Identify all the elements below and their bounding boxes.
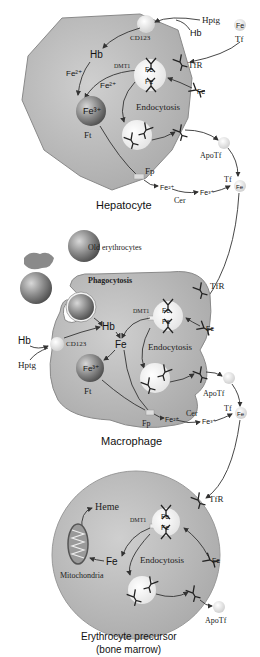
cd163-label: CD123 bbox=[130, 34, 151, 42]
endocytosis-label: Endocytosis bbox=[136, 102, 180, 112]
mac-ft-label: Ft bbox=[84, 386, 92, 396]
apotf-label: ApoTf bbox=[200, 151, 222, 160]
ery-fe-label: Fe bbox=[106, 556, 118, 567]
mac-fp-label: Fp bbox=[142, 419, 150, 428]
mac-hptg-label: Hptg bbox=[18, 360, 37, 370]
mac-tfr-fe-label: Fe bbox=[206, 325, 214, 332]
mac-apotf-label: ApoTf bbox=[203, 389, 225, 398]
ery-endocytosis-label: Endocytosis bbox=[140, 555, 184, 565]
fe2-out-label: Fe²⁺ bbox=[160, 184, 175, 191]
ery-endosome-bottom bbox=[128, 576, 156, 604]
mac-tfr-label: TfR bbox=[210, 281, 225, 291]
fp-label: Fp bbox=[145, 166, 155, 176]
fe2-label-a: Fe²⁺ bbox=[66, 69, 82, 78]
dmt1-label: DMT1 bbox=[114, 63, 130, 69]
ery-tfr-fe-label: Fe bbox=[212, 557, 220, 564]
mac-fp-transporter bbox=[146, 410, 154, 415]
mac-apotf-ball bbox=[223, 372, 235, 384]
phagocytosed-erythrocyte bbox=[68, 294, 94, 320]
mac-fe2-out-label: Fe²⁺ bbox=[165, 416, 180, 423]
mac-fe3-out-label: Fe³⁺ bbox=[202, 418, 217, 425]
ery-caption-line2: (bone marrow) bbox=[96, 644, 161, 655]
ery-endo-fe-top: Fe bbox=[161, 513, 169, 520]
ferritin-fe-label: Fe³⁺ bbox=[83, 106, 102, 116]
old-erythrocytes-label: Old erythrocytes bbox=[88, 243, 142, 252]
mac-endosome-bottom bbox=[140, 363, 170, 393]
fp-transporter bbox=[134, 174, 144, 179]
ery-tfr-label: TfR bbox=[209, 494, 224, 504]
mac-hb-inside-label: Hb bbox=[102, 321, 115, 332]
mac-tf-out-label: Tf bbox=[224, 404, 232, 413]
mac-cer-label: Cer bbox=[186, 409, 198, 418]
tf-out-fe-label: Fe bbox=[236, 184, 244, 190]
mac-ferritin-fe-label: Fe³⁺ bbox=[83, 364, 99, 373]
mac-endo-fe-bottom: Fe bbox=[162, 318, 170, 325]
hb-outside-label: Hb bbox=[190, 28, 202, 38]
mac-cd163-label: CD123 bbox=[66, 340, 87, 348]
cd163-receptor bbox=[137, 15, 155, 33]
fe3-out-label: Fe³⁺ bbox=[200, 189, 215, 196]
macrophage-caption: Macrophage bbox=[101, 435, 162, 447]
ery-dmt1-label: DMT1 bbox=[130, 517, 146, 523]
apotf-ball bbox=[218, 137, 230, 149]
tfr-fe-label: Fe bbox=[197, 88, 205, 95]
ery-endo-fe-bottom: Fe bbox=[161, 524, 169, 531]
mitochondria-icon bbox=[68, 524, 88, 564]
mac-fe-label: Fe bbox=[115, 339, 127, 350]
iron-metabolism-diagram: CD123 Hptg Hb Fe Tf TfR Fe Hb Fe²⁺ DMT1 … bbox=[0, 0, 260, 657]
hptg-label: Hptg bbox=[202, 15, 221, 25]
mac-cd163-receptor bbox=[50, 337, 64, 351]
mac-dmt1-label: DMT1 bbox=[133, 308, 149, 314]
mitochondria-label: Mitochondria bbox=[60, 571, 104, 580]
ery-apotf-label: ApoTf bbox=[205, 616, 227, 625]
ery-apotf-ball bbox=[213, 601, 225, 613]
ft-label: Ft bbox=[84, 130, 92, 140]
mac-tf-out-fe-label: Fe bbox=[237, 411, 245, 417]
mac-endocytosis-label: Endocytosis bbox=[148, 342, 192, 352]
endo-fe-top: Fe bbox=[145, 66, 153, 73]
hepatocyte-caption: Hepatocyte bbox=[96, 199, 152, 211]
mac-hb-outside-label: Hb bbox=[18, 335, 31, 346]
tfr-label: TfR bbox=[188, 60, 203, 70]
phagocytosis-label: Phagocytosis bbox=[88, 276, 132, 285]
tf-fe-label: Fe bbox=[236, 22, 244, 29]
endosome-bottom bbox=[122, 120, 152, 150]
ery-caption-line1: Erythrocyte precursor bbox=[81, 631, 177, 642]
heme-label: Heme bbox=[95, 501, 119, 512]
endo-fe-bottom: Fe bbox=[145, 78, 153, 85]
cer-label: Cer bbox=[174, 196, 186, 205]
hb-inside-label: Hb bbox=[90, 49, 103, 60]
mac-endo-fe-top: Fe bbox=[162, 307, 170, 314]
fe2-label-b: Fe²⁺ bbox=[100, 81, 116, 90]
tf-out-label: Tf bbox=[224, 175, 232, 184]
